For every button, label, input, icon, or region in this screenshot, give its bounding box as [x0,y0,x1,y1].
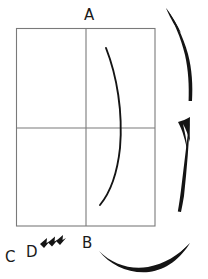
top-right-arrow-head [166,8,181,33]
figure-drawing [0,0,208,279]
top-right-curved-arrow [166,8,192,101]
point-label-a: A [84,8,94,23]
chevron-mark-3 [56,235,66,245]
point-label-d: D [26,245,38,260]
point-label-b: B [82,236,92,251]
quadrant-box [17,29,156,227]
bottom-curved-arrow [99,243,190,272]
small-chevron-marks [40,235,66,248]
middle-right-straight-arrow [178,117,190,212]
point-label-c: C [5,250,15,265]
figure-canvas: A B C D [0,0,208,279]
bowed-curve [100,48,121,205]
